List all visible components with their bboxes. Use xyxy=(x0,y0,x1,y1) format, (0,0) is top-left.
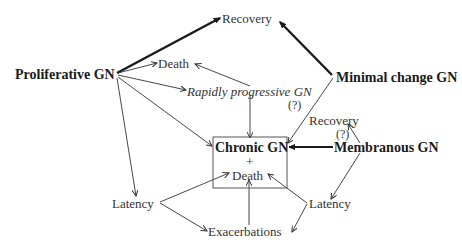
node-rapidly-progressive-gn: Rapidly progressive GN xyxy=(187,85,312,98)
node-exacerbations: Exacerbations xyxy=(208,225,282,238)
node-chronic-plus: + xyxy=(246,155,253,168)
edge-proliferative-latency xyxy=(117,78,136,196)
node-recovery-right: Recovery xyxy=(309,114,359,127)
edge-membranous-latency xyxy=(331,153,360,199)
edge-minimal-recovery xyxy=(280,22,332,75)
node-latency-left: Latency xyxy=(112,197,154,210)
node-minimal-change-gn: Minimal change GN xyxy=(336,71,457,85)
node-chronic-death: Death xyxy=(232,169,263,182)
edge-proliferative-rpgn xyxy=(118,75,186,90)
note-rpgn-uncertain: (?) xyxy=(288,99,301,111)
diagram-edges xyxy=(0,0,462,249)
edge-latency-left-exac xyxy=(160,203,207,231)
node-recovery-top: Recovery xyxy=(222,12,272,25)
node-membranous-gn: Membranous GN xyxy=(334,141,439,155)
node-chronic-gn: Chronic GN xyxy=(215,141,288,155)
node-proliferative-gn: Proliferative GN xyxy=(15,68,115,82)
node-latency-right: Latency xyxy=(309,197,351,210)
edge-rpgn-death xyxy=(195,64,250,86)
note-recovery-uncertain: (?) xyxy=(336,128,349,140)
node-death-top: Death xyxy=(158,57,189,70)
edge-latency-right-exac xyxy=(292,204,307,232)
